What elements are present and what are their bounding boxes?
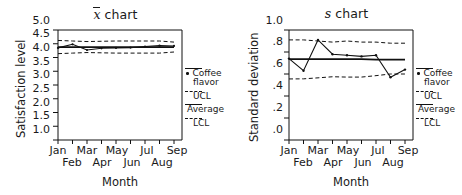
control-chart-figure: x chart Satisfaction level Month 1.0 1.5…	[0, 0, 462, 195]
legend-marker-dot-icon	[186, 72, 189, 75]
legend-item-average-xbar: Average	[185, 104, 231, 114]
legend-item-ucl-s: UCL	[416, 91, 462, 101]
legend-label-average-xbar: Average	[185, 105, 231, 114]
series-lcl-xbar	[58, 52, 174, 54]
axis-frame-s	[289, 30, 413, 140]
legend-item-coffee-flavor-s: Coffee flavor	[416, 68, 462, 88]
legend-label-lcl-s: LCL	[416, 119, 462, 128]
legend-xbar: Coffee flavor UCL Average LCL	[185, 68, 231, 128]
y-ticks-s	[284, 30, 289, 140]
series-ucl-xbar	[58, 40, 174, 42]
legend-label-ucl-s: UCL	[416, 92, 462, 101]
legend-item-lcl-xbar: LCL	[185, 118, 231, 128]
x-ticks-s	[289, 140, 405, 144]
legend-item-average-s: Average	[416, 104, 462, 114]
series-lcl-s	[289, 74, 405, 79]
legend-label-ucl-xbar: UCL	[185, 92, 231, 101]
legend-item-lcl-s: LCL	[416, 118, 462, 128]
legend-s: Coffee flavor UCL Average LCL	[416, 68, 462, 128]
legend-label-average-s: Average	[416, 105, 462, 114]
legend-label-coffee-flavor-line2: flavor	[185, 78, 231, 87]
series-average-s	[289, 59, 405, 60]
legend-label-coffee-flavor-s-line2: flavor	[416, 78, 462, 87]
legend-label-lcl-xbar: LCL	[185, 119, 231, 128]
x-ticks-xbar	[58, 140, 174, 144]
y-ticks-xbar	[53, 30, 58, 140]
series-ucl-s	[289, 40, 405, 43]
panel-xbar-chart: x chart Satisfaction level Month 1.0 1.5…	[0, 0, 231, 195]
legend-marker-dot-icon-s	[417, 72, 420, 75]
legend-item-coffee-flavor-xbar: Coffee flavor	[185, 68, 231, 88]
legend-item-ucl-xbar: UCL	[185, 91, 231, 101]
panel-s-chart: s chart Standard deviation Month .0 .2 .…	[231, 0, 462, 195]
